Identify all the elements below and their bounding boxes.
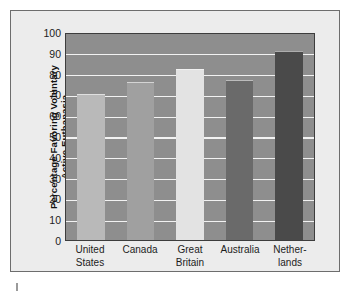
bar[interactable] [176,69,204,240]
x-tick-label: GreatBritain [165,244,215,270]
figure-frame: Percentage Favoring Voluntary Active Eut… [10,10,340,272]
bar-slot [215,34,265,240]
x-tick-label-line1: Canada [122,244,157,255]
chart-page: Percentage Favoring Voluntary Active Eut… [0,0,350,297]
x-tick-label: UnitedStates [65,244,115,270]
y-tick-label: 90 [33,49,61,60]
x-tick-label: Canada [115,244,165,270]
bar[interactable] [77,94,105,240]
y-tick-label: 10 [33,215,61,226]
y-axis-tick-labels: 1009080706050403020100 [29,33,61,241]
y-axis-title-wrapper: Percentage Favoring Voluntary Active Eut… [27,33,28,241]
x-tick-label-line1: Great [177,244,202,255]
x-tick-label-line1: Australia [221,244,260,255]
bar-slot [116,34,166,240]
y-tick-label: 60 [33,111,61,122]
x-tick-label-line1: United [76,244,105,255]
y-tick-label: 20 [33,194,61,205]
bar-slot [165,34,215,240]
x-axis-tick-labels: UnitedStatesCanadaGreatBritainAustraliaN… [65,244,315,270]
bar[interactable] [226,80,254,240]
bar-slot [264,34,314,240]
x-tick-label-line2: States [66,257,114,270]
plot-area [65,33,315,241]
bar-slot [66,34,116,240]
x-tick-label-line2: Britain [166,257,214,270]
x-tick-label-line2: lands [266,257,314,270]
x-tick-label: Australia [215,244,265,270]
x-tick-label: Nether-lands [265,244,315,270]
bar-series [66,34,314,240]
y-tick-label: 30 [33,173,61,184]
scan-artifact-mark [16,283,18,291]
y-tick-label: 70 [33,90,61,101]
x-tick-label-line1: Nether- [273,244,306,255]
y-tick-label: 50 [33,132,61,143]
y-tick-label: 40 [33,153,61,164]
y-tick-label: 0 [33,236,61,247]
bar[interactable] [127,82,155,240]
y-tick-label: 80 [33,69,61,80]
bar[interactable] [275,51,303,240]
y-tick-label: 100 [33,28,61,39]
